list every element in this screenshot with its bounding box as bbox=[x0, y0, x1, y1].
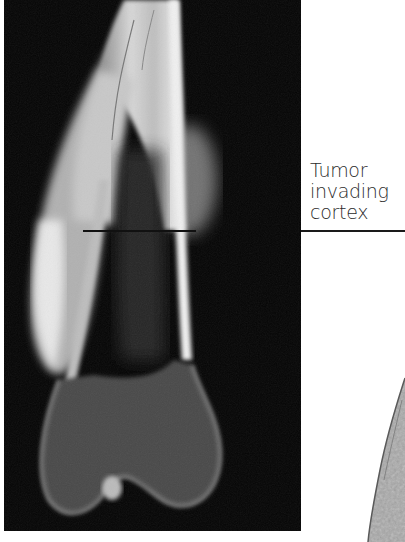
annotation-line-2: invading bbox=[310, 181, 389, 202]
xray-bone-illustration bbox=[4, 0, 301, 531]
histology-specimen bbox=[340, 360, 405, 542]
figure: Tumor invading cortex bbox=[0, 0, 405, 542]
annotation-line-1: Tumor bbox=[310, 160, 389, 181]
annotation-label: Tumor invading cortex bbox=[310, 160, 389, 223]
annotation-line-3: cortex bbox=[310, 202, 389, 223]
annotation-leader-line bbox=[301, 230, 405, 232]
xray-image bbox=[4, 0, 301, 531]
